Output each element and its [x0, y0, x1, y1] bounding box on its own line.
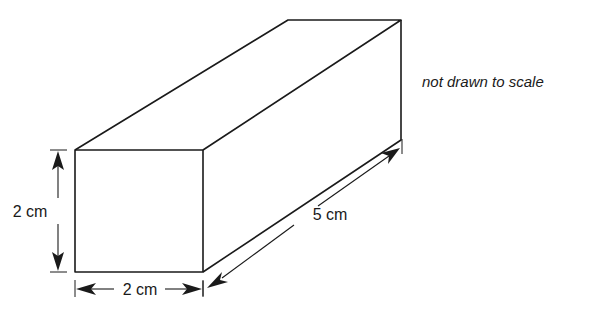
front-face [75, 150, 203, 272]
prism [75, 20, 401, 272]
arrow-up-right-icon [381, 148, 400, 164]
length-dimension [203, 139, 402, 296]
width-label: 2 cm [123, 281, 158, 298]
arrow-down-left-icon [207, 272, 228, 288]
prism-diagram: 2 cm 2 cm 5 cm not drawn to scale [0, 0, 606, 316]
length-label: 5 cm [313, 206, 348, 223]
scale-note: not drawn to scale [422, 73, 544, 90]
height-dimension [50, 150, 67, 272]
top-face-edges [75, 20, 401, 150]
side-face-edges [203, 20, 401, 272]
height-label: 2 cm [13, 203, 48, 220]
